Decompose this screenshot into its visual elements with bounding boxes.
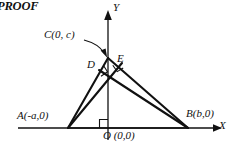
x-axis-label: X xyxy=(219,120,226,131)
side-CB xyxy=(108,58,188,128)
callout-arrow-to-C xyxy=(84,40,107,58)
altitude-A-to-E xyxy=(68,63,122,128)
point-label-B: B(b,0) xyxy=(186,108,214,119)
origin-label: O (0,0) xyxy=(103,130,135,141)
y-axis-label: Y xyxy=(113,2,119,13)
point-label-C: C(0, c) xyxy=(44,29,75,40)
geometry-figure-panel: PROOF xyxy=(0,0,231,147)
point-label-A: A(-a,0) xyxy=(17,110,48,121)
point-label-D: D xyxy=(87,59,95,70)
altitude-B-to-D xyxy=(99,70,188,128)
point-label-E: E xyxy=(117,53,124,64)
right-angle-mark-O xyxy=(100,120,109,129)
triangle-diagram-svg xyxy=(0,0,231,147)
